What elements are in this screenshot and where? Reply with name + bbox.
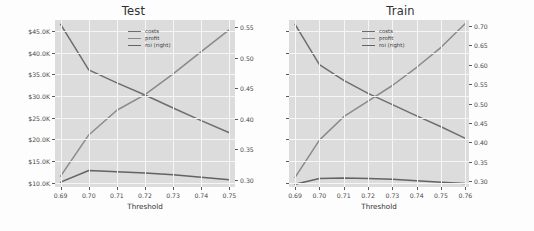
legend-label-costs: costs: [145, 28, 159, 35]
legend-test: costs profit roi (right): [128, 28, 170, 49]
ytick-mark-right: [469, 84, 472, 85]
ytick-mark-left: [52, 31, 55, 32]
ytick-label-right: 0.30: [474, 178, 488, 185]
ytick-mark-left: [52, 74, 55, 75]
ytick-label-left: $10.0K: [2, 179, 50, 186]
gridline-horizontal: [55, 53, 235, 54]
ytick-label-right: 0.55: [474, 81, 488, 88]
xtick-label: 0.71: [110, 192, 124, 199]
legend-swatch-profit: [128, 38, 141, 40]
ytick-mark-left: [286, 31, 289, 32]
legend-item-roi: roi (right): [362, 42, 404, 49]
gridline-horizontal: [289, 53, 469, 54]
ytick-label-right: 0.45: [240, 85, 254, 92]
ytick-mark-left: [52, 118, 55, 119]
legend-item-roi: roi (right): [128, 42, 170, 49]
ytick-label-right: 0.35: [240, 146, 254, 153]
ytick-label-left: $25.0K: [2, 114, 50, 121]
gridline-horizontal: [289, 96, 469, 97]
xtick-mark: [392, 187, 393, 190]
xtick-mark: [145, 187, 146, 190]
legend-item-costs: costs: [362, 28, 404, 35]
ytick-mark-left: [52, 53, 55, 54]
ytick-label-right: 0.50: [474, 100, 488, 107]
gridline-horizontal: [55, 74, 235, 75]
xtick-mark: [89, 187, 90, 190]
ytick-mark-left: [52, 161, 55, 162]
ytick-mark-right: [469, 123, 472, 124]
ytick-mark-right: [469, 26, 472, 27]
xtick-label: 0.73: [386, 192, 400, 199]
xtick-label: 0.74: [410, 192, 424, 199]
ytick-mark-right: [235, 27, 238, 28]
legend-item-profit: profit: [128, 35, 170, 42]
ytick-mark-left: [286, 183, 289, 184]
ytick-label-right: 0.70: [474, 22, 488, 29]
legend-label-profit: profit: [379, 35, 393, 42]
legend-label-roi: roi (right): [145, 42, 170, 49]
legend-train: costs profit roi (right): [362, 28, 404, 49]
xtick-mark: [295, 187, 296, 190]
ytick-label-right: 0.60: [474, 61, 488, 68]
xtick-label: 0.71: [337, 192, 351, 199]
ytick-mark-right: [235, 180, 238, 181]
ytick-mark-left: [286, 96, 289, 97]
ytick-mark-right: [235, 58, 238, 59]
ytick-label-left: $40.0K: [2, 49, 50, 56]
ytick-label-left: $15.0K: [2, 158, 50, 165]
ytick-label-right: 0.40: [240, 115, 254, 122]
ytick-mark-right: [469, 142, 472, 143]
ytick-mark-left: [286, 118, 289, 119]
legend-swatch-roi: [362, 45, 375, 47]
panel-title-test: Test: [0, 4, 267, 18]
legend-swatch-costs: [128, 31, 141, 33]
legend-label-roi: roi (right): [379, 42, 404, 49]
xtick-mark: [417, 187, 418, 190]
xtick-mark: [201, 187, 202, 190]
ytick-mark-right: [235, 88, 238, 89]
gridline-horizontal: [55, 139, 235, 140]
legend-swatch-roi: [128, 45, 141, 47]
figure-canvas: Test $10.0K$15.0K$20.0K$25.0K$30.0K$35.0…: [0, 0, 534, 231]
legend-item-costs: costs: [128, 28, 170, 35]
gridline-horizontal: [289, 118, 469, 119]
ytick-label-right: 0.65: [474, 42, 488, 49]
legend-swatch-costs: [362, 31, 375, 33]
ytick-mark-left: [286, 161, 289, 162]
ytick-mark-right: [469, 181, 472, 182]
ytick-label-right: 0.55: [240, 24, 254, 31]
ytick-label-right: 0.45: [474, 119, 488, 126]
gridline-horizontal: [55, 161, 235, 162]
xtick-label: 0.75: [223, 192, 237, 199]
ytick-mark-right: [469, 45, 472, 46]
ytick-label-left: $30.0K: [2, 92, 50, 99]
ytick-label-left: $35.0K: [2, 71, 50, 78]
xtick-label: 0.72: [138, 192, 152, 199]
legend-label-costs: costs: [379, 28, 393, 35]
ytick-mark-left: [286, 74, 289, 75]
gridline-horizontal: [55, 183, 235, 184]
panel-title-train: Train: [267, 4, 534, 18]
xtick-label: 0.70: [313, 192, 327, 199]
xtick-mark: [61, 187, 62, 190]
gridline-horizontal: [55, 96, 235, 97]
xtick-label: 0.70: [82, 192, 96, 199]
xtick-label: 0.72: [361, 192, 375, 199]
legend-swatch-profit: [362, 38, 375, 40]
ytick-mark-left: [52, 183, 55, 184]
xtick-label: 0.74: [194, 192, 208, 199]
gridline-horizontal: [289, 74, 469, 75]
panel-train: Train 0.300.350.400.450.500.550.600.650.…: [267, 0, 534, 231]
ytick-mark-right: [235, 149, 238, 150]
legend-label-profit: profit: [145, 35, 159, 42]
ytick-label-right: 0.50: [240, 54, 254, 61]
xtick-mark: [117, 187, 118, 190]
xtick-mark: [465, 187, 466, 190]
xtick-mark: [344, 187, 345, 190]
legend-item-profit: profit: [362, 35, 404, 42]
ytick-label-right: 0.35: [474, 158, 488, 165]
xtick-mark: [368, 187, 369, 190]
ytick-mark-left: [52, 139, 55, 140]
ytick-mark-left: [286, 139, 289, 140]
ytick-label-right: 0.30: [240, 176, 254, 183]
